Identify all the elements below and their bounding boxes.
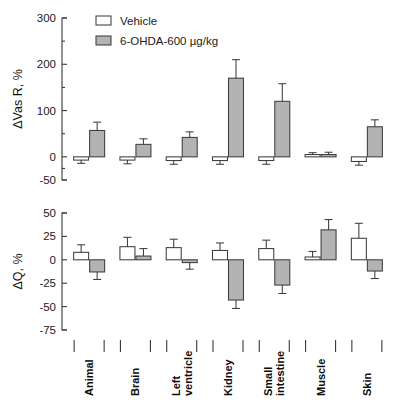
y-tick-label-vas-r-3: 200 — [37, 58, 56, 70]
category-label-3-line-0: Kidney — [222, 358, 234, 396]
bar-vas-r-left-ventricle-vehicle — [166, 157, 181, 161]
category-bracket-2 — [167, 340, 197, 352]
category-bracket-4 — [259, 340, 289, 352]
category-label-4-line-1: intestine — [274, 351, 286, 396]
bar-delta-q-small-intestine-ohda — [275, 260, 290, 285]
y-tick-label-delta-q-0: -75 — [39, 324, 56, 336]
bar-vas-r-skin-vehicle — [351, 157, 366, 162]
y-tick-label-vas-r-0: -50 — [39, 174, 56, 186]
bar-delta-q-small-intestine-vehicle — [259, 249, 274, 260]
category-bracket-6 — [352, 340, 382, 352]
category-label-1-line-0: Brain — [129, 368, 141, 396]
legend-text-ohda: 6-OHDA-600 µg/kg — [120, 35, 218, 47]
legend-text-vehicle: Vehicle — [120, 15, 157, 27]
category-bracket-0 — [74, 340, 104, 352]
y-axis-spine-delta-q — [62, 213, 67, 330]
y-tick-label-delta-q-5: 50 — [43, 207, 56, 219]
category-axis: AnimalBrainLeftventricleKidneySmallintes… — [74, 340, 382, 396]
figure-container: -500100200300ΔVas R, % -75-50-2502550ΔQ,… — [0, 0, 399, 400]
chart-legend: Vehicle6-OHDA-600 µg/kg — [96, 15, 218, 47]
bar-delta-q-left-ventricle-ohda — [182, 260, 197, 263]
bar-delta-q-kidney-ohda — [229, 260, 244, 300]
bar-delta-q-muscle-ohda — [321, 230, 336, 260]
bar-vas-r-kidney-ohda — [229, 78, 244, 157]
category-label-4-line-0: Small — [262, 367, 274, 396]
category-bracket-1 — [120, 340, 150, 352]
bar-vas-r-brain-ohda — [136, 144, 151, 156]
legend-swatch-vehicle — [96, 16, 111, 25]
category-label-0-line-0: Animal — [83, 359, 95, 396]
category-label-6-line-0: Skin — [361, 372, 373, 396]
bar-vas-r-kidney-vehicle — [213, 157, 228, 161]
bar-delta-q-kidney-vehicle — [213, 250, 228, 259]
bar-vas-r-animal-ohda — [90, 130, 105, 156]
bar-delta-q-left-ventricle-vehicle — [166, 248, 181, 260]
bar-vas-r-muscle-vehicle — [305, 155, 320, 157]
y-axis-spine-vas-r — [62, 18, 67, 180]
y-tick-label-delta-q-1: -50 — [39, 301, 56, 313]
y-axis-title-delta-q: ΔQ, % — [11, 253, 25, 289]
y-tick-label-vas-r-2: 100 — [37, 105, 56, 117]
bar-delta-q-brain-vehicle — [120, 247, 135, 260]
legend-swatch-ohda — [96, 36, 111, 45]
bar-vas-r-skin-ohda — [367, 127, 382, 157]
bar-vas-r-brain-vehicle — [120, 157, 135, 160]
y-tick-label-vas-r-4: 300 — [37, 12, 56, 24]
bar-vas-r-muscle-ohda — [321, 155, 336, 157]
dual-bar-chart: -500100200300ΔVas R, % -75-50-2502550ΔQ,… — [0, 0, 399, 400]
bar-delta-q-animal-vehicle — [74, 252, 89, 259]
bar-delta-q-brain-ohda — [136, 256, 151, 260]
y-tick-label-delta-q-2: -25 — [39, 277, 56, 289]
category-label-2-line-0: Left — [170, 376, 182, 397]
y-tick-label-vas-r-1: 0 — [50, 151, 56, 163]
panel-delta-q: -75-50-2502550ΔQ, % — [11, 207, 382, 336]
bar-vas-r-left-ventricle-ohda — [182, 137, 197, 156]
bar-vas-r-animal-vehicle — [74, 157, 89, 160]
category-bracket-5 — [306, 340, 336, 352]
category-label-5-line-0: Muscle — [315, 359, 327, 396]
bar-delta-q-skin-vehicle — [351, 238, 366, 260]
bar-vas-r-small-intestine-vehicle — [259, 157, 274, 161]
category-bracket-3 — [213, 340, 243, 352]
bar-delta-q-muscle-vehicle — [305, 257, 320, 260]
y-tick-label-delta-q-4: 25 — [43, 230, 56, 242]
bar-vas-r-small-intestine-ohda — [275, 101, 290, 157]
bar-delta-q-skin-ohda — [367, 260, 382, 271]
y-axis-title-vas-r: ΔVas R, % — [11, 69, 25, 129]
y-tick-label-delta-q-3: 0 — [50, 254, 56, 266]
bar-delta-q-animal-ohda — [90, 260, 105, 272]
category-label-2-line-1: ventricle — [182, 351, 194, 396]
